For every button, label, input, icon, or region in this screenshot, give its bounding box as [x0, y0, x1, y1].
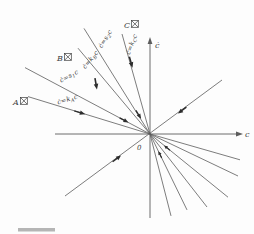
ray-lr-1 [150, 134, 240, 160]
labels: ċ c 0 A B C [12, 21, 250, 153]
line-label-s1: ċ=s1c [58, 68, 80, 85]
line-s2 [84, 28, 150, 134]
region-letter-A: A [12, 98, 19, 107]
line-diagonal [65, 80, 222, 196]
region-box-glyph-A [21, 98, 28, 105]
origin-label: 0 [137, 144, 142, 152]
flow-arrow-kA [74, 109, 86, 117]
region-letter-C: C [124, 21, 130, 30]
region-label-C: C [124, 21, 138, 31]
flow-arrow-fan-2 [157, 150, 163, 158]
ray-lr-4 [150, 134, 207, 207]
axis-arrowheads [148, 37, 243, 136]
flow-arrow-s2 [134, 109, 143, 120]
y-axis-arrowhead-icon [148, 37, 153, 44]
axes [55, 43, 237, 218]
line-s1 [25, 68, 150, 134]
region-label-B: B [56, 54, 71, 64]
ray-lr-6 [150, 134, 171, 216]
region-letter-B: B [56, 54, 63, 63]
scan-artifact-bar [18, 228, 55, 232]
flow-arrow-regionB [93, 78, 100, 90]
flow-arrow-diagonal-q1 [177, 105, 188, 115]
region-box-glyph-B [65, 54, 72, 61]
phase-plane-diagram: ċ c 0 A B C [0, 0, 254, 234]
flow-arrow-s1 [119, 116, 130, 124]
ray-lr-5 [150, 134, 187, 210]
line-label-kA: ċ=kAc [56, 93, 79, 107]
x-axis-label: c [245, 130, 250, 139]
line-kA [28, 97, 150, 134]
x-axis-arrowhead-icon [236, 132, 243, 137]
line-label-kC: ċ=kCc [124, 33, 140, 56]
region-label-A: A [12, 98, 27, 108]
diagram-page: ċ c 0 A B C [0, 0, 254, 234]
line-label-kB: ċ=kBc [81, 49, 101, 71]
y-axis-label: ċ [155, 41, 160, 50]
line-label-s2: ċ=s2c [97, 28, 115, 50]
region-box-glyph-C [132, 21, 139, 28]
